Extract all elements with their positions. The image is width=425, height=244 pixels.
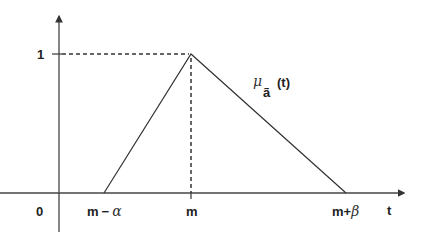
tick-label-m: m [186,204,198,219]
curve-label-subscript: ã [263,85,271,100]
tick-label-m-minus-alpha: m−α [87,203,122,219]
x-axis-label: t [387,203,392,218]
tick-label-m-plus-beta: m+β [332,203,359,219]
y-tick-label: 1 [37,47,44,62]
membership-curve [104,54,346,193]
curve-label: μ [253,73,262,89]
origin-label: 0 [36,204,43,219]
membership-diagram: 1 0 m−α m m+β t μ ã (t) [0,0,425,244]
curve-label-argument: (t) [277,75,290,90]
